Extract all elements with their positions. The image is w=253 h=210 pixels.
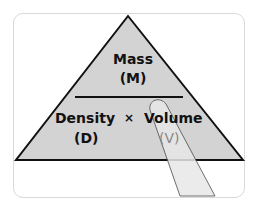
volume-label: Volume <box>144 110 203 126</box>
density-triangle <box>0 0 253 210</box>
volume-symbol: (V) <box>159 130 180 146</box>
density-label: Density <box>55 110 115 126</box>
times-operator: × <box>124 111 134 125</box>
density-symbol: (D) <box>74 130 98 146</box>
mass-label: Mass <box>108 51 158 67</box>
mass-symbol: (M) <box>108 70 158 86</box>
